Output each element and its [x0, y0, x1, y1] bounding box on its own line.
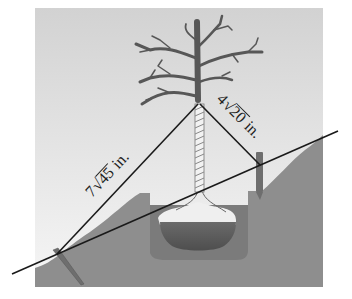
right-stake	[256, 152, 263, 192]
tree-staking-diagram: 7√45in. 4√20in.	[0, 0, 352, 299]
